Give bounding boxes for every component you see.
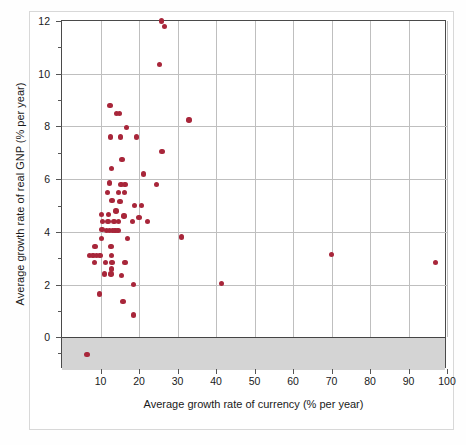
x-tick — [101, 369, 102, 374]
y-minor-tick — [58, 258, 62, 259]
y-tick — [56, 232, 62, 233]
data-point — [105, 219, 110, 224]
data-point — [119, 273, 124, 278]
x-tick-label: 70 — [326, 375, 338, 387]
data-point — [99, 236, 104, 241]
x-tick-label: 100 — [438, 375, 456, 387]
data-point — [113, 208, 118, 213]
data-point — [433, 260, 438, 265]
data-point — [131, 312, 136, 317]
x-tick — [447, 369, 448, 374]
data-point — [154, 182, 159, 187]
data-point — [118, 134, 123, 139]
x-tick-label: 80 — [364, 375, 376, 387]
data-point — [103, 260, 108, 265]
data-point — [120, 299, 125, 304]
data-point — [97, 253, 102, 258]
data-point — [122, 182, 127, 187]
data-point — [157, 62, 162, 67]
data-point — [159, 18, 164, 23]
data-point — [108, 244, 113, 249]
gridline-vertical — [447, 21, 448, 337]
data-point — [159, 149, 164, 154]
y-minor-tick — [58, 353, 62, 354]
data-point — [105, 190, 110, 195]
data-point — [124, 125, 129, 130]
data-point — [109, 166, 114, 171]
x-tick-label: 90 — [403, 375, 415, 387]
x-tick — [293, 369, 294, 374]
y-tick — [56, 74, 62, 75]
data-point — [106, 212, 111, 217]
gridline-horizontal — [62, 74, 447, 75]
y-minor-tick — [58, 153, 62, 154]
data-point — [186, 117, 191, 122]
data-point — [132, 203, 137, 208]
x-tick-label: 50 — [249, 375, 261, 387]
data-point — [139, 203, 144, 208]
data-point — [131, 282, 136, 287]
y-tick-label: 10 — [38, 68, 50, 80]
data-point — [97, 291, 102, 296]
y-minor-tick — [58, 311, 62, 312]
x-tick — [409, 369, 410, 374]
y-minor-tick — [58, 206, 62, 207]
x-axis-title: Average growth rate of currency (% per y… — [61, 398, 446, 410]
y-minor-tick — [58, 47, 62, 48]
data-point — [122, 190, 127, 195]
x-tick — [139, 369, 140, 374]
data-point — [92, 260, 97, 265]
gridline-horizontal — [62, 126, 447, 127]
y-tick-label: 0 — [44, 331, 50, 343]
y-tick — [56, 285, 62, 286]
y-tick-label: 2 — [44, 279, 50, 291]
data-point — [121, 213, 126, 218]
data-point — [99, 212, 104, 217]
figure-container: 102030405060708090100024681012 Average g… — [0, 0, 466, 445]
data-point — [117, 111, 122, 116]
data-point — [116, 190, 121, 195]
data-point — [116, 219, 121, 224]
data-point — [145, 219, 150, 224]
data-point — [134, 134, 139, 139]
data-point — [109, 198, 114, 203]
x-tick — [332, 369, 333, 374]
gridline-horizontal — [62, 179, 447, 180]
data-point — [108, 134, 113, 139]
gridline-horizontal — [62, 285, 447, 286]
y-tick-label: 6 — [44, 173, 50, 185]
data-point — [179, 234, 184, 239]
data-point — [141, 171, 146, 176]
y-tick — [56, 337, 62, 338]
x-tick — [370, 369, 371, 374]
data-point — [162, 24, 167, 29]
scatter-plot-area: 102030405060708090100024681012 — [61, 20, 446, 368]
x-tick — [216, 369, 217, 374]
data-point — [102, 271, 107, 276]
data-point — [92, 244, 97, 249]
data-point — [115, 228, 120, 233]
data-point — [107, 180, 112, 185]
y-tick — [56, 179, 62, 180]
y-tick — [56, 21, 62, 22]
data-point — [136, 215, 141, 220]
x-tick-label: 30 — [172, 375, 184, 387]
data-point — [107, 103, 112, 108]
y-axis-title: Average growth rate of real GNP (% per y… — [14, 83, 26, 306]
data-point — [84, 352, 89, 357]
x-tick — [255, 369, 256, 374]
data-point — [329, 252, 334, 257]
data-point — [109, 260, 114, 265]
data-point — [130, 219, 135, 224]
y-minor-tick — [58, 100, 62, 101]
x-tick-label: 10 — [95, 375, 107, 387]
x-tick-label: 20 — [133, 375, 145, 387]
x-tick — [178, 369, 179, 374]
x-tick-label: 40 — [210, 375, 222, 387]
x-tick-label: 60 — [287, 375, 299, 387]
data-point — [119, 157, 124, 162]
data-point — [109, 253, 114, 258]
y-tick-label: 4 — [44, 226, 50, 238]
data-point — [122, 260, 127, 265]
negative-growth-shaded-region — [62, 337, 445, 370]
